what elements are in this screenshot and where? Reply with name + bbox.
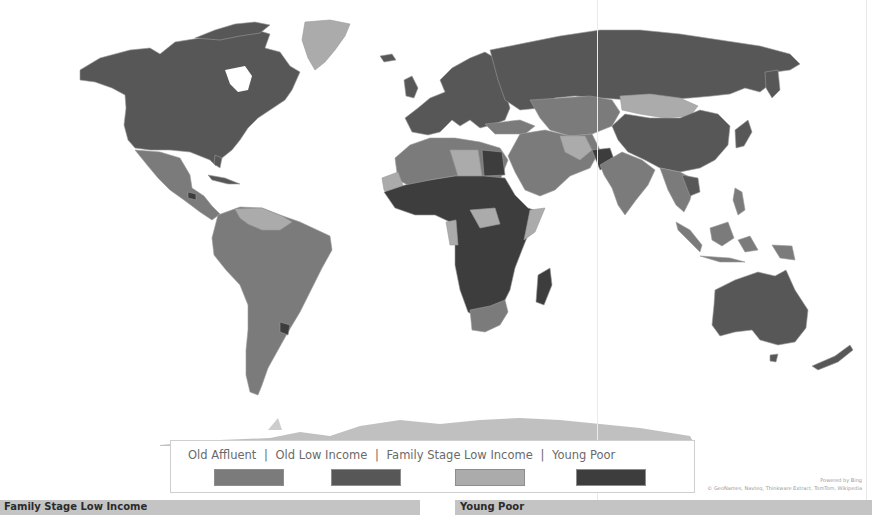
region-mexico-central-america[interactable]	[135, 150, 220, 220]
region-south-america[interactable]	[212, 207, 332, 395]
region-north-america[interactable]	[80, 28, 300, 166]
map-canvas[interactable]	[0, 0, 872, 500]
region-sub-saharan-africa[interactable]	[384, 176, 540, 318]
region-australia[interactable]	[712, 270, 808, 345]
region-iceland[interactable]	[380, 54, 396, 62]
region-caribbean[interactable]	[208, 175, 240, 184]
map-credits: © GeoNames, Navteq, Thinkware Extract, T…	[707, 485, 862, 491]
legend-label-old-low-income: Old Low Income	[276, 448, 368, 462]
legend-title: Old Affluent | Old Low Income | Family S…	[171, 448, 694, 462]
region-uk[interactable]	[404, 76, 418, 98]
region-india[interactable]	[600, 152, 655, 215]
map-legend: Old Affluent | Old Low Income | Family S…	[170, 440, 695, 493]
world-map[interactable]	[0, 0, 872, 500]
legend-swatch-young-poor	[576, 469, 646, 486]
panel-title-young-poor: Young Poor	[460, 501, 524, 512]
legend-separator: |	[375, 448, 379, 462]
legend-swatch-family-stage-low-income	[455, 469, 525, 486]
region-new-zealand[interactable]	[812, 345, 853, 370]
region-japan[interactable]	[735, 120, 752, 148]
legend-label-old-affluent: Old Affluent	[188, 448, 256, 462]
legend-separator: |	[264, 448, 268, 462]
legend-separator: |	[540, 448, 544, 462]
panel-title-family-stage-low-income: Family Stage Low Income	[4, 501, 147, 512]
powered-by-bing: Powered by Bing	[820, 477, 862, 483]
legend-label-family-stage-low-income: Family Stage Low Income	[387, 448, 533, 462]
legend-swatch-old-affluent	[214, 469, 284, 486]
region-indonesia[interactable]	[676, 222, 795, 262]
map-tile-seam	[597, 0, 598, 500]
legend-swatch-old-low-income	[331, 469, 401, 486]
map-tile-seam	[866, 0, 867, 500]
region-madagascar[interactable]	[536, 268, 552, 305]
legend-label-young-poor: Young Poor	[552, 448, 615, 462]
region-greenland[interactable]	[302, 20, 350, 70]
